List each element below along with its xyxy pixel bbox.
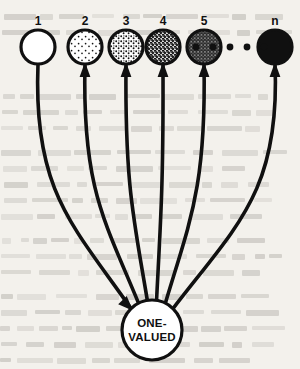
node-group: 12345n [21,14,292,64]
edge-to-node-3 [126,64,148,301]
node-circle-2 [68,30,102,64]
edge-to-node-n [172,64,275,309]
one-valued-node[interactable]: ONE-VALUED [122,300,182,360]
node-label-2: 2 [82,14,89,28]
figure-canvas: 12345n ONE-VALUED [0,0,300,369]
one-valued-diagram: 12345n ONE-VALUED [0,0,300,369]
ellipsis-dot-3 [227,44,234,51]
node-circle-1 [21,30,55,64]
node-1[interactable]: 1 [21,14,55,64]
node-5[interactable]: 5 [187,14,221,64]
node-label-5: 5 [201,14,208,28]
ellipsis-dot-4 [244,44,251,51]
node-4[interactable]: 4 [146,14,180,64]
node-3[interactable]: 3 [109,14,143,64]
node-label-1: 1 [35,14,42,28]
node-label-4: 4 [160,14,167,28]
edge-to-node-4 [157,64,164,301]
one-valued-label-line1: ONE- [137,317,167,329]
ellipsis-dot-1 [193,44,200,51]
node-n[interactable]: n [258,14,292,64]
one-valued-circle [122,300,182,360]
node-label-n: n [271,14,278,28]
node-circle-3 [109,30,143,64]
node-label-3: 3 [123,14,130,28]
node-2[interactable]: 2 [68,14,102,64]
ellipsis-dot-5 [261,44,268,51]
edge-to-node-5 [165,64,204,304]
one-valued-label-line2: VALUED [128,331,176,343]
ellipsis-dot-2 [210,44,217,51]
edge-group [38,62,281,311]
node-circle-4 [146,30,180,64]
